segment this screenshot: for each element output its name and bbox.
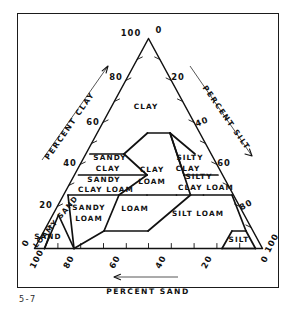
region-text-clay-l1: CLAY xyxy=(134,102,159,111)
tick-label-sand-60: 60 xyxy=(107,253,122,270)
region-text-silty-clay-loam-l1: SILTY xyxy=(185,172,212,181)
region-label-sand: SAND xyxy=(34,232,61,241)
region-text-sandy-loam-l1: SANDY xyxy=(72,203,105,212)
region-text-sand-l1: SAND xyxy=(34,232,61,241)
region-text-sandy-clay-loam-l1: SANDY xyxy=(87,175,120,184)
region-text-clay-loam-l1: CLAY xyxy=(140,165,165,174)
region-label-sandy-loam: SANDY LOAM xyxy=(72,203,105,223)
tick-label-clay-80: 80 xyxy=(109,72,123,82)
figure-caption: 5-7 xyxy=(19,294,36,304)
region-label-silt: SILT xyxy=(229,235,250,244)
region-label-loam: LOAM xyxy=(121,204,149,213)
region-text-silty-clay-l1: SILTY xyxy=(176,153,203,162)
tick-label-sand-40: 40 xyxy=(153,253,168,270)
region-text-clay-loam-l2: LOAM xyxy=(138,177,166,186)
axis-name-sand: PERCENT SAND xyxy=(106,287,190,296)
tick-label-clay-60: 60 xyxy=(86,117,100,127)
corner-right-sand-0: 0 xyxy=(259,253,271,264)
tick-label-silt-20: 20 xyxy=(171,72,185,82)
apex-clay-100: 100 xyxy=(121,28,141,38)
region-text-sandy-clay-l1: SANDY xyxy=(93,153,126,162)
tick-label-silt-40: 40 xyxy=(194,114,210,128)
region-text-silty-clay-loam-l2: CLAY LOAM xyxy=(178,183,234,192)
triangle-outline xyxy=(35,39,263,249)
region-label-clay: CLAY xyxy=(134,102,159,111)
corner-left-sand-100: 100 xyxy=(27,247,45,270)
tick-label-silt-60: 60 xyxy=(217,158,231,168)
tick-label-sand-20: 20 xyxy=(199,253,214,270)
region-label-silt-loam: SILT LOAM xyxy=(172,209,224,218)
apex-silt-0: 0 xyxy=(156,25,163,35)
region-label-sandy-clay: SANDY CLAY xyxy=(93,153,126,173)
tick-label-clay-40: 40 xyxy=(63,158,77,168)
tick-label-sand-80: 80 xyxy=(61,253,76,270)
region-text-loam-l1: LOAM xyxy=(121,204,149,213)
corner-right-silt-100: 100 xyxy=(262,231,280,254)
axis-label-percent-sand: PERCENT SAND xyxy=(106,287,190,296)
figure-root: PERCENT CLAY PERCENT SILT PERCENT SAND 1… xyxy=(0,0,297,317)
region-text-sandy-clay-l2: CLAY xyxy=(96,164,121,173)
region-label-sandy-clay-loam: SANDY CLAY LOAM xyxy=(78,175,134,194)
region-text-sandy-loam-l2: LOAM xyxy=(75,214,103,223)
region-text-silt-l1: SILT xyxy=(229,235,250,244)
axis-label-percent-silt: PERCENT SILT xyxy=(201,84,252,152)
axis-name-silt: PERCENT SILT xyxy=(201,84,252,152)
corner-left-silt-0: 0 xyxy=(20,237,32,248)
region-text-sandy-clay-loam-l2: CLAY LOAM xyxy=(78,185,134,194)
tick-label-silt-80: 80 xyxy=(237,197,254,212)
tick-label-clay-20: 20 xyxy=(39,200,53,210)
soil-texture-triangle: PERCENT CLAY PERCENT SILT PERCENT SAND 1… xyxy=(0,0,297,317)
region-text-silt-loam-l1: SILT LOAM xyxy=(172,209,224,218)
